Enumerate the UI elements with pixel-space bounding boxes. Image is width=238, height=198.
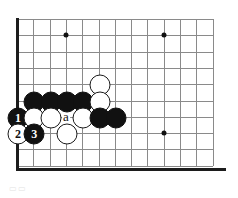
star-point: [63, 33, 68, 38]
grid-line-horizontal: [17, 166, 213, 167]
grid-line-horizontal: [17, 68, 213, 69]
grid-line-vertical: [164, 19, 165, 166]
stone-move-number: 2: [15, 128, 21, 140]
grid-line-horizontal: [17, 52, 213, 53]
go-diagram-figure: a123 ▭▭: [0, 0, 238, 198]
grid-line-horizontal: [17, 133, 213, 134]
board-edge-left: [16, 18, 19, 170]
star-point: [161, 33, 166, 38]
stone-white[interactable]: [56, 124, 77, 145]
grid-line-vertical: [196, 19, 197, 166]
stone-black[interactable]: [105, 107, 126, 128]
stone-white[interactable]: [40, 107, 61, 128]
grid-line-horizontal: [17, 19, 213, 20]
grid-line-vertical: [180, 19, 181, 166]
grid-line-horizontal: [17, 84, 213, 85]
stone-move-number: 3: [31, 128, 37, 140]
grid-line-vertical: [131, 19, 132, 166]
star-point: [161, 131, 166, 136]
grid-line-horizontal: [17, 35, 213, 36]
grid-line-vertical: [147, 19, 148, 166]
grid-line-vertical: [115, 19, 116, 166]
stone-black-move-3[interactable]: 3: [24, 124, 45, 145]
grid-line-horizontal: [17, 149, 213, 150]
stone-move-number: 1: [15, 111, 21, 123]
board-edge-bottom: [16, 168, 226, 171]
caption-artifact: ▭▭: [9, 184, 27, 193]
go-board[interactable]: a123: [0, 0, 238, 198]
grid-line-vertical: [213, 19, 214, 166]
